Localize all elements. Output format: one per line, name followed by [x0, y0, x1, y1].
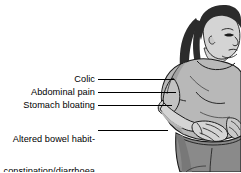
callout-label-colic: Colic: [74, 74, 95, 85]
figure-body: [158, 5, 241, 172]
callout-label-stomach-bloating: Stomach bloating: [23, 100, 95, 111]
callout-label-abdominal-pain: Abdominal pain: [31, 87, 95, 98]
symptom-illustration-figure: Colic Abdominal pain Stomach bloating Al…: [0, 0, 241, 172]
callout-label-altered-bowel-habit-line-1: Altered bowel habit-: [3, 134, 95, 145]
callout-label-altered-bowel-habit-line-2: constipation/diarrhoea: [3, 166, 95, 173]
callout-label-altered-bowel-habit: Altered bowel habit- constipation/diarrh…: [3, 113, 95, 172]
